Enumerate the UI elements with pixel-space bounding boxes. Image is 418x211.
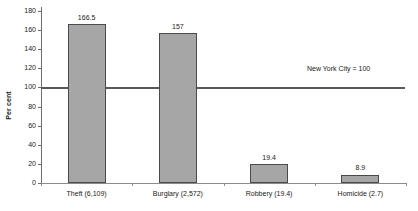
bar-value-label: 157 xyxy=(148,22,208,31)
y-axis-tick-mark xyxy=(38,164,41,165)
y-axis-tick-label: 60 xyxy=(28,121,36,130)
x-axis-tick-mark xyxy=(406,183,407,186)
bar xyxy=(159,33,197,183)
plot-area: 020406080100120140160180 New York City =… xyxy=(41,11,406,183)
y-axis-tick-mark xyxy=(38,49,41,50)
bar xyxy=(250,164,288,183)
y-axis-tick-label: 0 xyxy=(32,178,36,187)
y-axis-tick-label: 20 xyxy=(28,159,36,168)
y-axis-tick-mark xyxy=(38,107,41,108)
y-axis-tick-label: 40 xyxy=(28,140,36,149)
y-axis-tick-label: 120 xyxy=(24,63,36,72)
y-axis-title: Per cent xyxy=(0,0,16,211)
y-axis-tick-mark xyxy=(38,11,41,12)
x-axis-tick-mark xyxy=(132,183,133,186)
y-axis-line xyxy=(41,7,42,183)
y-axis-tick-mark xyxy=(38,145,41,146)
x-axis-tick-mark xyxy=(41,183,42,186)
y-axis-tick-label: 180 xyxy=(24,6,36,15)
y-axis-tick-label: 140 xyxy=(24,44,36,53)
y-axis-tick-mark xyxy=(38,30,41,31)
y-axis-tick-label: 160 xyxy=(24,25,36,34)
bar-value-label: 166.5 xyxy=(57,13,117,22)
reference-line-label: New York City = 100 xyxy=(307,64,370,73)
bar-value-label: 19.4 xyxy=(239,153,299,162)
bar xyxy=(341,175,379,184)
bar xyxy=(68,24,106,183)
y-axis-tick-mark xyxy=(38,126,41,127)
bar-value-label: 8.9 xyxy=(330,163,390,172)
y-axis-tick-mark xyxy=(38,68,41,69)
bar-chart: Per cent 020406080100120140160180 New Yo… xyxy=(0,0,418,211)
y-axis-tick-label: 80 xyxy=(28,102,36,111)
y-axis-tick-label: 100 xyxy=(24,82,36,91)
x-axis-tick-mark xyxy=(315,183,316,186)
x-axis-category-label: Homicide (2.7) xyxy=(305,189,415,198)
y-axis-title-label: Per cent xyxy=(5,91,12,119)
x-axis-tick-mark xyxy=(224,183,225,186)
